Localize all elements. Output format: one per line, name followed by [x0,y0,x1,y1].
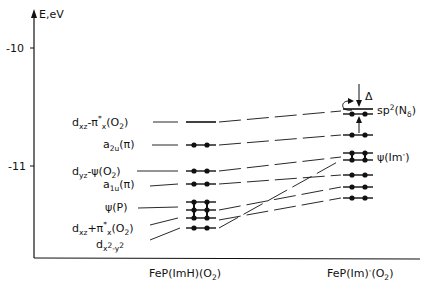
label-psi-P: ψ(P) [105,201,127,214]
down-arrow-icon [356,100,362,107]
tick-label-minus-11: -11 [8,160,26,173]
left-label-connectors [137,122,180,240]
label-dyz-psi-O2: dyz-ψ(O2) [72,165,121,180]
left-levels [186,122,216,231]
column-label-right: FeP(Im)-(O2) [327,266,393,282]
label-dxz-minus-pi-star: dxz-π*x(O2) [72,114,128,131]
energy-level-diagram: E,eV -10 -11 FeP(ImH)(O2) FeP(Im)-(O2) d… [0,0,427,286]
level-dxz-plus [186,225,216,230]
y-axis-arrow-icon [31,9,37,18]
y-axis-label: E,eV [39,8,64,21]
y-axis: E,eV -10 -11 [6,8,64,258]
label-psi-Im-minus: ψ(Im-) [377,150,410,164]
delta-label: Δ [365,90,373,103]
up-arrow-icon [356,116,362,123]
column-label-left: FeP(ImH)(O2) [149,267,221,282]
label-a2u-pi: a2u(π) [103,138,135,153]
level-psi-Im [343,150,373,162]
level-right-5 [343,172,373,177]
label-dxz-plus-pi-star: dxz+π*x(O2) [72,220,133,237]
tick-label-minus-10: -10 [6,42,24,55]
label-sp2-N-delta: sp2(Nδ) [377,103,416,119]
level-right-7 [343,195,373,200]
label-dx2-y2: dx2-y2 [96,238,124,253]
label-a1u-pi: a1u(π) [103,178,135,193]
level-dyz [186,168,216,173]
level-psi-P [186,199,216,220]
level-sp2-filled [343,111,373,116]
left-level-labels: dxz-π*x(O2) a2u(π) dyz-ψ(O2) a1u(π) ψ(P)… [72,114,135,253]
level-a1u [186,181,216,186]
correlation-lines [219,111,341,228]
level-right-6 [343,184,373,189]
level-a2u [186,142,216,147]
level-right-2 [343,132,373,137]
x-axis [34,258,420,259]
